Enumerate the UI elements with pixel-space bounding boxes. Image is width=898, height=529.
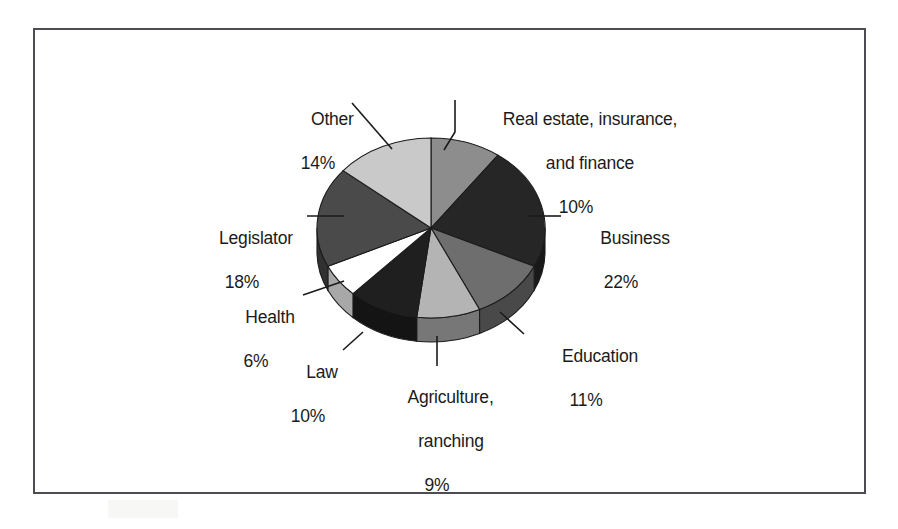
slice-label-agriculture-line2: ranching xyxy=(418,431,484,451)
slice-value-legislator: 18% xyxy=(183,271,301,293)
leader-line-law xyxy=(343,332,363,350)
slice-value-agriculture: 9% xyxy=(372,474,502,496)
slice-value-health: 6% xyxy=(215,350,297,372)
slice-value-business: 22% xyxy=(566,271,676,293)
slice-value-other: 14% xyxy=(283,152,353,174)
slice-label-education-line1: Education xyxy=(562,346,638,366)
figure-root: Real estate, insurance, and finance 10% … xyxy=(0,0,898,529)
slice-value-education: 11% xyxy=(531,389,641,411)
leader-line-other xyxy=(352,103,392,149)
slice-label-law-line1: Law xyxy=(306,362,338,382)
slice-label-business: Business 22% xyxy=(566,205,676,337)
slice-label-legislator-line1: Legislator xyxy=(219,228,293,248)
pie-chart: Real estate, insurance, and finance 10% … xyxy=(0,0,898,529)
slice-label-legislator: Legislator 18% xyxy=(183,205,301,337)
slice-label-agriculture: Agriculture, ranching 9% xyxy=(372,364,502,529)
slice-label-agriculture-line1: Agriculture, xyxy=(407,387,493,407)
slice-label-other: Other 14% xyxy=(283,86,353,218)
slice-label-other-line1: Other xyxy=(311,109,354,129)
slice-label-real-estate-line1: Real estate, insurance, xyxy=(503,109,677,129)
slice-label-business-line1: Business xyxy=(600,228,669,248)
slice-label-education: Education 11% xyxy=(531,323,641,455)
slice-label-real-estate-line2: and finance xyxy=(546,153,634,173)
